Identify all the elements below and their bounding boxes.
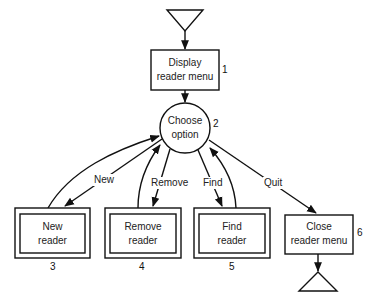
- new-reader-label: New reader: [20, 221, 85, 247]
- choose-number: 2: [213, 118, 219, 130]
- new-reader-number: 3: [50, 261, 56, 273]
- end-terminal-icon: [299, 272, 337, 291]
- edge-label-quit: Quit: [263, 177, 283, 189]
- find-reader-label: Find reader: [199, 221, 265, 247]
- find-reader-number: 5: [229, 261, 235, 273]
- choose-label: Choose option: [160, 115, 210, 141]
- flowchart-canvas: [0, 0, 370, 301]
- start-terminal-icon: [167, 10, 203, 31]
- display-number: 1: [222, 64, 228, 76]
- display-label: Display reader menu: [151, 57, 219, 83]
- edge-label-remove: Remove: [150, 177, 189, 189]
- close-reader-menu-number: 6: [357, 227, 363, 239]
- remove-reader-number: 4: [139, 261, 145, 273]
- close-reader-menu-label: Close reader menu: [285, 221, 353, 247]
- remove-reader-label: Remove reader: [110, 221, 176, 247]
- edge-label-new: New: [93, 174, 115, 186]
- edge-label-find: Find: [202, 177, 223, 189]
